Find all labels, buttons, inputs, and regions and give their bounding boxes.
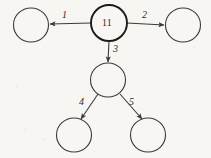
node-root-label: 11: [102, 18, 112, 28]
node-bottom-left: [57, 118, 92, 152]
edge-2: [127, 23, 164, 25]
diagram-canvas: 11 1 2 3 4 5: [0, 0, 211, 158]
edge-label-3: 3: [113, 44, 118, 54]
edge-3: [108, 41, 109, 62]
edge-label-1: 1: [62, 10, 67, 20]
edge-label-5: 5: [129, 97, 134, 107]
edge-label-4: 4: [79, 97, 84, 107]
edge-1: [50, 23, 91, 24]
node-left: [14, 8, 49, 42]
edge-label-2: 2: [142, 10, 147, 20]
edge-layer: [50, 23, 164, 119]
node-middle: [91, 63, 126, 97]
node-bottom-right: [131, 118, 166, 152]
node-right: [166, 8, 201, 42]
